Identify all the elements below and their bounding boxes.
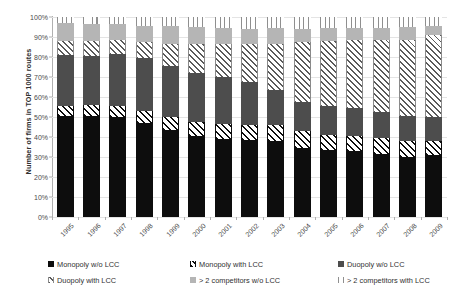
bar-segment	[425, 141, 442, 155]
legend-row: Monopoly w/o LCCMonopoly with LCCDuopoly…	[48, 256, 458, 272]
bar-segment	[57, 55, 74, 106]
bar-segment	[267, 28, 284, 44]
bar-segment	[320, 17, 337, 28]
x-tick-mark	[315, 217, 316, 220]
bar-segment	[267, 17, 284, 28]
bar-2003	[267, 17, 284, 217]
bar-segment	[425, 117, 442, 141]
legend-label: Monopoly with LCC	[199, 260, 263, 269]
bar-segment	[399, 27, 416, 40]
bar-segment	[162, 130, 179, 217]
x-tick-label-2005: 2005	[322, 222, 338, 238]
bar-2007	[373, 17, 390, 217]
bar-segment	[162, 117, 179, 130]
bar-segment	[109, 40, 126, 54]
legend-label: > 2 competitors with LCC	[347, 276, 430, 285]
x-tick-mark	[78, 217, 79, 220]
bar-segment	[267, 90, 284, 125]
y-tick-mark	[49, 137, 52, 138]
x-tick-mark	[52, 217, 53, 220]
bar-2008	[399, 17, 416, 217]
legend-swatch-icon	[48, 261, 54, 267]
bar-2009	[425, 17, 442, 217]
bar-segment	[215, 139, 232, 217]
x-tick-label-2001: 2001	[217, 222, 233, 238]
x-tick-mark	[447, 217, 448, 220]
bar-segment	[136, 17, 153, 26]
bar-segment	[294, 17, 311, 29]
bar-segment	[241, 44, 258, 82]
bar-segment	[346, 108, 363, 136]
x-tick-label-2003: 2003	[270, 222, 286, 238]
x-tick-mark	[157, 217, 158, 220]
legend-swatch-icon	[338, 277, 344, 283]
bar-segment	[399, 157, 416, 217]
x-tick-label-2008: 2008	[401, 222, 417, 238]
bar-segment	[373, 138, 390, 154]
x-tick-label-2007: 2007	[375, 222, 391, 238]
bar-segment	[188, 73, 205, 122]
bar-segment	[241, 140, 258, 217]
bar-segment	[136, 26, 153, 42]
y-tick-label: 80%	[34, 54, 48, 61]
x-tick-mark	[342, 217, 343, 220]
bar-segment	[346, 136, 363, 151]
bar-segment	[373, 154, 390, 217]
bar-segment	[425, 17, 442, 26]
bar-segment	[215, 124, 232, 139]
bar-segment	[320, 41, 337, 106]
bar-segment	[294, 148, 311, 217]
x-tick-label-1997: 1997	[112, 222, 128, 238]
x-tick-label-1995: 1995	[59, 222, 75, 238]
bar-segment	[346, 17, 363, 28]
chart-legend: Monopoly w/o LCCMonopoly with LCCDuopoly…	[48, 256, 458, 288]
x-tick-mark	[236, 217, 237, 220]
stacked-bar-chart: Number of firms in TOP 1000 routes 0%10%…	[0, 0, 469, 298]
bar-segment	[188, 122, 205, 136]
bar-segment	[215, 44, 232, 77]
bar-segment	[294, 29, 311, 42]
bar-segment	[109, 54, 126, 106]
bar-1995	[57, 17, 74, 217]
y-tick-mark	[49, 37, 52, 38]
bar-1998	[136, 17, 153, 217]
x-tick-label-2006: 2006	[349, 222, 365, 238]
x-tick-mark	[105, 217, 106, 220]
bar-1997	[109, 17, 126, 217]
legend-swatch-icon	[190, 277, 196, 283]
bar-2005	[320, 17, 337, 217]
bar-segment	[241, 82, 258, 125]
x-tick-mark	[289, 217, 290, 220]
bar-segment	[425, 26, 442, 35]
bar-segment	[399, 17, 416, 27]
bar-segment	[109, 24, 126, 40]
bar-segment	[162, 17, 179, 26]
bar-segment	[399, 40, 416, 116]
y-tick-label: 100%	[30, 14, 48, 21]
y-tick-mark	[49, 157, 52, 158]
bar-segment	[136, 42, 153, 58]
x-tick-mark	[368, 217, 369, 220]
bar-segment	[188, 27, 205, 44]
bar-segment	[136, 111, 153, 123]
gridline	[52, 217, 447, 218]
bar-segment	[373, 28, 390, 40]
x-tick-mark	[421, 217, 422, 220]
y-tick-mark	[49, 197, 52, 198]
y-tick-mark	[49, 57, 52, 58]
x-tick-mark	[394, 217, 395, 220]
legend-label: Duopoly w/o LCC	[347, 260, 405, 269]
y-tick-mark	[49, 177, 52, 178]
legend-label: Monopoly w/o LCC	[57, 260, 119, 269]
bar-segment	[162, 44, 179, 66]
bar-segment	[399, 116, 416, 141]
y-axis-title: Number of firms in TOP 1000 routes	[24, 22, 33, 202]
x-tick-label-2000: 2000	[191, 222, 207, 238]
bar-segment	[294, 102, 311, 131]
bar-segment	[215, 28, 232, 44]
plot-area: 0%10%20%30%40%50%60%70%80%90%100%	[52, 17, 447, 217]
bar-segment	[241, 17, 258, 29]
x-tick-mark	[210, 217, 211, 220]
bar-segment	[57, 106, 74, 116]
bar-segment	[109, 17, 126, 24]
